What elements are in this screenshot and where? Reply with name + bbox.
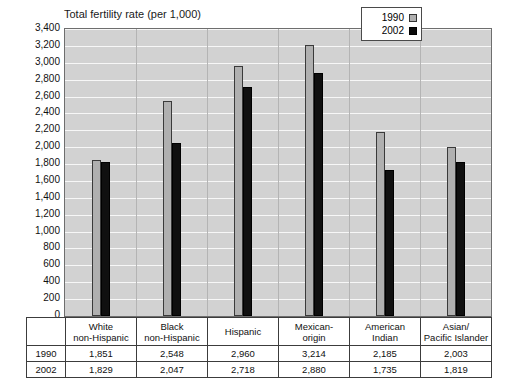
y-axis-tick-label: 2,800	[2, 74, 60, 84]
y-axis-tick-label: 1,600	[2, 175, 60, 185]
y-axis-tick-label: 3,200	[2, 40, 60, 50]
bar-1990-asian	[447, 147, 456, 316]
table-value-cell: 2,185	[350, 346, 421, 362]
legend-label-2002: 2002	[382, 26, 404, 36]
y-axis-tick-label: 2,400	[2, 107, 60, 117]
table-column-header-line: non-Hispanic	[66, 332, 136, 343]
table-column-header: Asian/Pacific Islander	[421, 318, 492, 346]
legend-item-1990: 1990	[367, 11, 417, 24]
legend-item-2002: 2002	[367, 24, 417, 37]
table-value-cell: 1,829	[66, 362, 137, 378]
bar-2002-black	[172, 143, 181, 316]
bar-1990-black	[163, 101, 172, 316]
y-axis-tick-label: 200	[2, 293, 60, 303]
plot-area	[64, 28, 492, 317]
table-value-cell: 2,548	[137, 346, 208, 362]
table-value-cell: 2,880	[279, 362, 350, 378]
y-axis-tick-label: 400	[2, 276, 60, 286]
bar-2002-hispanic	[243, 87, 252, 316]
table-column-header-line: Indian	[350, 332, 420, 343]
y-axis-tick-label: 3,000	[2, 57, 60, 67]
y-axis-tick-label: 2,000	[2, 141, 60, 151]
table-column-header-line: non-Hispanic	[137, 332, 207, 343]
table-row-label: 1990	[27, 346, 66, 362]
y-axis-tick-label: 1,000	[2, 226, 60, 236]
table-value-cell: 1,851	[66, 346, 137, 362]
table-column-header-line: White	[66, 321, 136, 332]
bar-1990-mexicanorigin	[305, 45, 314, 316]
data-table: Whitenon-HispanicBlacknon-HispanicHispan…	[26, 317, 492, 378]
fertility-rate-figure: Total fertility rate (per 1,000) 0200400…	[0, 0, 510, 392]
table-header-row: Whitenon-HispanicBlacknon-HispanicHispan…	[27, 318, 492, 346]
table-column-header: Mexican-origin	[279, 318, 350, 346]
table-column-header-line: origin	[279, 332, 349, 343]
bar-2002-asian	[456, 162, 465, 316]
legend-swatch-1990-icon	[409, 14, 417, 22]
table-row: 20021,8292,0472,7182,8801,7351,819	[27, 362, 492, 378]
chart-title: Total fertility rate (per 1,000)	[64, 8, 201, 21]
table-row: 19901,8512,5482,9603,2142,1852,003	[27, 346, 492, 362]
table-column-header: Blacknon-Hispanic	[137, 318, 208, 346]
y-axis-tick-label: 1,800	[2, 158, 60, 168]
legend-swatch-2002-icon	[409, 27, 417, 35]
bar-1990-white	[92, 160, 101, 316]
table-column-header: Hispanic	[208, 318, 279, 346]
table-column-header-line: Mexican-	[279, 321, 349, 332]
table-column-header: Whitenon-Hispanic	[66, 318, 137, 346]
table-value-cell: 3,214	[279, 346, 350, 362]
y-axis-tick-label: 1,200	[2, 209, 60, 219]
table-column-header-line: Asian/	[421, 321, 491, 332]
chart-legend: 1990 2002	[361, 7, 422, 41]
bar-group-container	[65, 29, 491, 316]
y-axis-tick-label: 1,400	[2, 192, 60, 202]
legend-label-1990: 1990	[382, 13, 404, 23]
table-column-header-line: American	[350, 321, 420, 332]
table-column-header-line: Black	[137, 321, 207, 332]
bar-2002-mexicanorigin	[314, 73, 323, 316]
table-value-cell: 2,047	[137, 362, 208, 378]
table-value-cell: 2,960	[208, 346, 279, 362]
table-value-cell: 1,819	[421, 362, 492, 378]
table-column-header: AmericanIndian	[350, 318, 421, 346]
table-value-cell: 2,718	[208, 362, 279, 378]
table-value-cell: 1,735	[350, 362, 421, 378]
table-value-cell: 2,003	[421, 346, 492, 362]
table-row-label: 2002	[27, 362, 66, 378]
y-axis-tick-label: 600	[2, 259, 60, 269]
table-corner-cell	[27, 318, 66, 346]
y-axis-tick-label: 3,400	[2, 23, 60, 33]
bar-1990-american	[376, 132, 385, 316]
y-axis-tick-label: 800	[2, 242, 60, 252]
y-axis-tick-label: 2,600	[2, 91, 60, 101]
table-column-header-line: Hispanic	[208, 326, 278, 337]
bar-1990-hispanic	[234, 66, 243, 316]
bar-2002-white	[101, 162, 110, 316]
y-axis-tick-label: 2,200	[2, 124, 60, 134]
table-column-header-line: Pacific Islander	[421, 332, 491, 343]
y-axis: 02004006008001,0001,2001,4001,6001,8002,…	[0, 28, 60, 317]
bar-2002-american	[385, 170, 394, 316]
